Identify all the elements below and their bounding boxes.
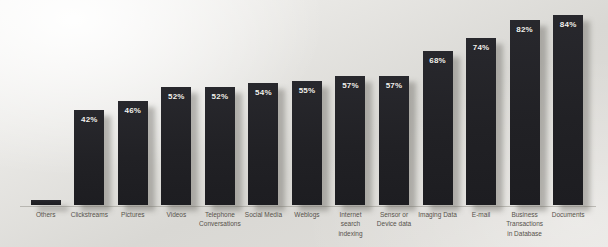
bar-area: 52% <box>198 0 242 205</box>
bar-category-label: Videos <box>155 210 197 219</box>
bar-value-label: 55% <box>299 86 316 205</box>
bar-value-label: 57% <box>342 81 359 205</box>
bar <box>31 200 61 205</box>
bar-category-label: Imaging Data <box>417 210 459 219</box>
bar-category-label: Business Transactions in Database <box>504 210 546 238</box>
bar-category-label: Social Media <box>242 210 284 219</box>
bar-area: 82% <box>503 0 547 205</box>
bar-column: Others <box>24 0 68 247</box>
bar-column: 52%Videos <box>155 0 199 247</box>
bar-value-label: 52% <box>168 92 185 205</box>
bar-column: 84%Documents <box>546 0 590 247</box>
bar-category-label: E-mail <box>460 210 502 219</box>
bar-chart: Others42%Clickstreams46%Pictures52%Video… <box>24 0 590 247</box>
bar-value-label: 82% <box>516 25 533 205</box>
bar-value-label: 74% <box>473 43 490 205</box>
bar-value-label: 46% <box>125 106 142 205</box>
bar-area: 54% <box>242 0 286 205</box>
bar: 74% <box>466 38 496 205</box>
bar: 68% <box>423 51 453 205</box>
bar-area <box>24 0 68 205</box>
bar: 57% <box>379 76 409 205</box>
bar-value-label: 68% <box>429 56 446 205</box>
bar-value-label: 52% <box>212 92 229 205</box>
bar-column: 68%Imaging Data <box>416 0 460 247</box>
bar-column: 46%Pictures <box>111 0 155 247</box>
bar-category-label: Pictures <box>112 210 154 219</box>
bar-chart-photo: Others42%Clickstreams46%Pictures52%Video… <box>0 0 608 247</box>
bar-category-label: Sensor or Device data <box>373 210 415 229</box>
bar-column: 55%Weblogs <box>285 0 329 247</box>
bar-area: 42% <box>68 0 112 205</box>
bar: 46% <box>118 101 148 205</box>
bar-column: 82%Business Transactions in Database <box>503 0 547 247</box>
bar-area: 57% <box>329 0 373 205</box>
bar: 84% <box>553 15 583 205</box>
bar-category-label: Internet search indexing <box>329 210 371 238</box>
bar-area: 68% <box>416 0 460 205</box>
bar-area: 74% <box>459 0 503 205</box>
bar-area: 52% <box>155 0 199 205</box>
bar-column: 57%Internet search indexing <box>329 0 373 247</box>
bar: 54% <box>248 83 278 205</box>
bar-value-label: 57% <box>386 81 403 205</box>
bar-area: 57% <box>372 0 416 205</box>
bar: 82% <box>510 20 540 205</box>
bar: 57% <box>335 76 365 205</box>
bar-column: 74%E-mail <box>459 0 503 247</box>
bar-category-label: Documents <box>547 210 589 219</box>
bar-value-label: 84% <box>560 20 577 205</box>
bar-area: 46% <box>111 0 155 205</box>
bar-category-label: Weblogs <box>286 210 328 219</box>
bar-column: 52%Telephone Conversations <box>198 0 242 247</box>
bar-column: 54%Social Media <box>242 0 286 247</box>
bar-area: 55% <box>285 0 329 205</box>
bar-category-label: Others <box>25 210 67 219</box>
bar: 52% <box>161 87 191 205</box>
bar-column: 42%Clickstreams <box>68 0 112 247</box>
bar-category-label: Clickstreams <box>68 210 110 219</box>
bar-category-label: Telephone Conversations <box>199 210 241 229</box>
bar-area: 84% <box>546 0 590 205</box>
bar: 42% <box>74 110 104 205</box>
bar: 55% <box>292 81 322 205</box>
bar-value-label: 42% <box>81 115 98 205</box>
bar-value-label: 54% <box>255 88 272 205</box>
bar-column: 57%Sensor or Device data <box>372 0 416 247</box>
bar: 52% <box>205 87 235 205</box>
